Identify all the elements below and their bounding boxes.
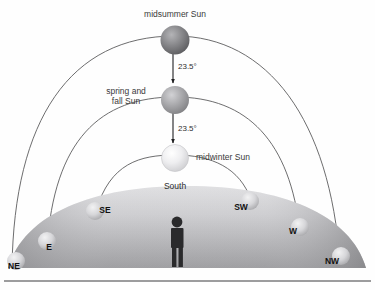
label-direction-nw: NW — [325, 257, 339, 267]
label-midsummer-sun: midsummer Sun — [144, 10, 206, 20]
label-direction-w: W — [289, 227, 297, 237]
dome-shading — [8, 186, 366, 268]
observer-body — [171, 228, 184, 248]
label-direction-ne: NE — [8, 262, 20, 272]
label-midwinter-sun: midwinter Sun — [196, 153, 250, 163]
sun-midwinter — [162, 145, 189, 172]
label-angle-bottom: 23.5° — [178, 124, 197, 133]
label-direction-sw: SW — [234, 203, 248, 213]
observer-head — [172, 217, 183, 228]
horizon-dome — [8, 186, 366, 268]
label-spring-fall-sun-line2: fall Sun — [112, 97, 140, 107]
label-angle-top: 23.5° — [178, 62, 197, 71]
sun-spheres — [161, 26, 190, 172]
label-south: South — [164, 182, 186, 192]
label-direction-e: E — [46, 243, 52, 253]
observer-leg-left — [172, 247, 176, 267]
label-direction-se: SE — [99, 206, 110, 216]
observer-leg-right — [179, 247, 183, 267]
diagram-canvas — [0, 0, 375, 290]
sun-path-diagram: midsummer Sun spring and fall Sun midwin… — [0, 0, 375, 290]
sun-springfall — [161, 86, 189, 114]
sun-midsummer — [161, 26, 190, 55]
